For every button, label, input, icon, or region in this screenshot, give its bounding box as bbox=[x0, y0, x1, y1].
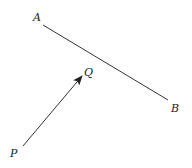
segment-ab bbox=[43, 25, 168, 100]
label-q: Q bbox=[84, 66, 93, 79]
vector-pq-arrow bbox=[23, 76, 82, 146]
label-p: P bbox=[9, 147, 18, 160]
label-b: B bbox=[170, 102, 179, 115]
label-a: A bbox=[32, 11, 41, 24]
diagram-canvas: A B Q P bbox=[0, 0, 192, 168]
